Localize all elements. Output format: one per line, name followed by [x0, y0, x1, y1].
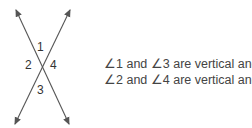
statement-1-3: ∠1 and ∠3 are vertical angles. [104, 56, 252, 71]
angle-label-1: 1 [37, 40, 44, 54]
statement-2-4: ∠2 and ∠4 are vertical angles. [104, 72, 252, 87]
angle-label-4: 4 [50, 58, 57, 72]
line-b [15, 10, 70, 124]
angle-label-3: 3 [37, 83, 44, 97]
angle-label-2: 2 [25, 58, 32, 72]
